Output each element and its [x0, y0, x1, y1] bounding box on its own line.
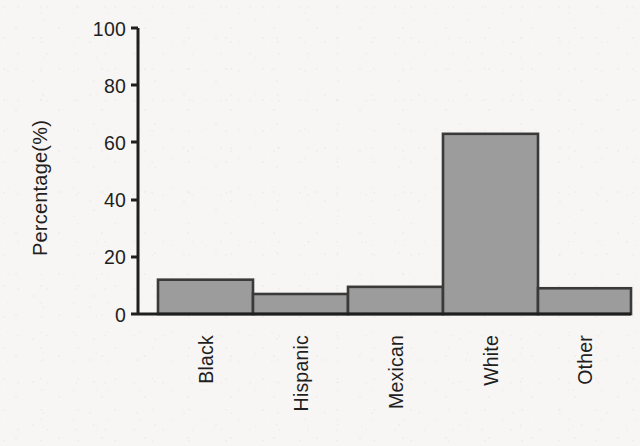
x-tick-label-hispanic: Hispanic: [290, 335, 312, 411]
x-tick-label-other: Other: [574, 335, 596, 385]
x-tick-label-mexican: Mexican: [385, 335, 407, 409]
y-tick-label-0: 0: [115, 304, 126, 326]
y-axis-title: Percentage(%): [29, 120, 51, 256]
bar-hispanic: [253, 294, 348, 314]
bar-other: [538, 288, 631, 314]
bar-black: [158, 280, 253, 314]
y-tick-label-60: 60: [104, 132, 126, 154]
y-axis: [131, 28, 138, 314]
y-tick-label-80: 80: [104, 75, 126, 97]
bar-white: [443, 134, 538, 314]
bar-mexican: [348, 287, 443, 314]
y-tick-label-20: 20: [104, 246, 126, 268]
chart-canvas: Percentage(%) 0 20 40 60 80 100 B: [0, 0, 640, 446]
y-tick-label-100: 100: [93, 18, 126, 40]
y-tick-label-40: 40: [104, 189, 126, 211]
bar-chart-figure: Percentage(%) 0 20 40 60 80 100 B: [0, 0, 640, 446]
x-tick-label-black: Black: [195, 335, 217, 384]
x-tick-label-white: White: [480, 335, 502, 386]
bars-group: [158, 134, 631, 314]
